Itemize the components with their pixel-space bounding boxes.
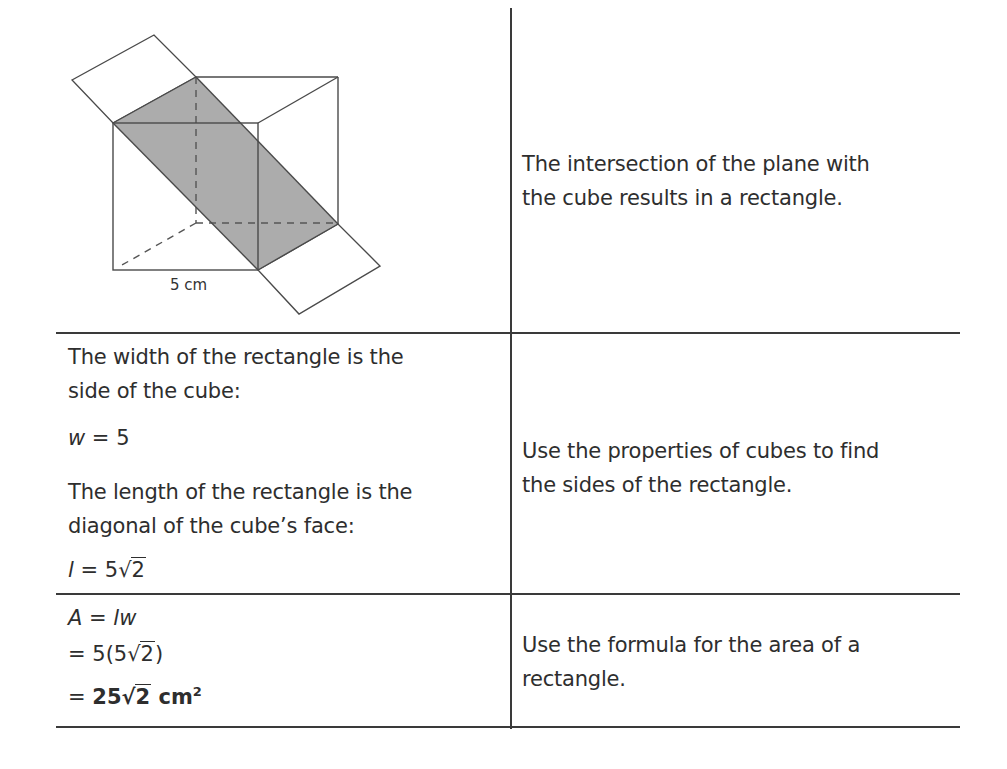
row-divider-2: [56, 593, 960, 595]
row2-explanation: Use the properties of cubes to find the …: [522, 434, 879, 502]
equals-sign: =: [68, 685, 92, 709]
row1-explanation-line: the cube results in a rectangle.: [522, 181, 870, 215]
radicand: 2: [140, 641, 155, 666]
length-explanation-line: diagonal of the cube’s face:: [68, 509, 412, 543]
length-explanation-line: The length of the rectangle is the: [68, 475, 412, 509]
close-paren: ): [155, 642, 163, 666]
length-equation: l = 5√2: [68, 556, 146, 584]
column-divider: [510, 8, 512, 729]
radical-sign: √: [127, 642, 140, 666]
row-divider-1: [56, 332, 960, 334]
width-explanation-line: The width of the rectangle is the: [68, 340, 403, 374]
width-value: 5: [116, 426, 129, 450]
width-equation: w = 5: [68, 424, 130, 452]
substitution-prefix: 5(5: [92, 642, 127, 666]
area-variable: A: [68, 606, 82, 630]
intersection-rectangle: [113, 77, 338, 270]
width-explanation: The width of the rectangle is the side o…: [68, 340, 403, 408]
side-length-label: 5 cm: [170, 276, 207, 294]
row1-explanation-line: The intersection of the plane with: [522, 147, 870, 181]
equals-sign: =: [74, 558, 105, 582]
area-formula: A = lw: [68, 604, 136, 632]
row3-explanation-line: Use the formula for the area of a: [522, 628, 860, 662]
radical-sign: √: [122, 685, 136, 709]
row3-explanation: Use the formula for the area of a rectan…: [522, 628, 860, 696]
length-explanation: The length of the rectangle is the diago…: [68, 475, 412, 543]
sqrt-symbol: √2: [118, 556, 146, 584]
equals-sign: =: [82, 606, 113, 630]
area-substitution: = 5(5√2): [68, 640, 163, 668]
equals-sign: =: [85, 426, 116, 450]
row2-explanation-line: the sides of the rectangle.: [522, 468, 879, 502]
row2-explanation-line: Use the properties of cubes to find: [522, 434, 879, 468]
unit-exponent: 2: [193, 684, 202, 699]
table-bottom-rule: [56, 726, 960, 728]
radical-sign: √: [118, 558, 131, 582]
radicand: 2: [135, 684, 152, 709]
area-answer: = 25√2 cm2: [68, 678, 202, 711]
length-times-width: lw: [113, 606, 136, 630]
row1-explanation: The intersection of the plane with the c…: [522, 147, 870, 215]
cube-plane-figure: 5 cm: [0, 0, 420, 330]
radicand: 2: [131, 557, 146, 582]
answer-unit: cm: [151, 685, 193, 709]
answer-coefficient: 25: [92, 685, 121, 709]
equals-sign: =: [68, 642, 92, 666]
row3-explanation-line: rectangle.: [522, 662, 860, 696]
length-coefficient: 5: [105, 558, 118, 582]
sqrt-symbol: √2: [122, 683, 152, 711]
sqrt-symbol: √2: [127, 640, 155, 668]
width-variable: w: [68, 426, 85, 450]
width-explanation-line: side of the cube:: [68, 374, 403, 408]
